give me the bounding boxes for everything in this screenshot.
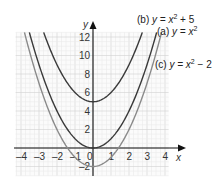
x-tick-label: –2 <box>52 151 64 162</box>
chart: x y –4–3–2–101234–224681012 (a) y = x2(b… <box>0 0 216 181</box>
x-tick-label: 3 <box>145 151 151 162</box>
y-axis-arrow-icon <box>90 21 97 29</box>
y-tick-label: 2 <box>84 124 90 135</box>
x-tick-label: 2 <box>127 151 133 162</box>
x-tick-label: –3 <box>34 151 46 162</box>
y-tick-label: 6 <box>84 87 90 98</box>
x-tick-label: –4 <box>16 151 28 162</box>
x-axis-label: x <box>175 152 182 163</box>
x-tick-label: 4 <box>163 151 169 162</box>
y-tick-label: 12 <box>79 32 91 43</box>
y-tick-label: 8 <box>84 69 90 80</box>
x-axis-arrow-icon <box>178 145 186 152</box>
curve-label-c: (c) y = x2 − 2 <box>155 58 212 70</box>
y-tick-label: 10 <box>79 50 91 61</box>
curve-label-a: (a) y = x2 <box>157 25 197 37</box>
curve-label-b: (b) y = x2 + 5 <box>137 13 195 25</box>
y-axis-label: y <box>82 19 89 30</box>
y-tick-label: 4 <box>84 106 90 117</box>
